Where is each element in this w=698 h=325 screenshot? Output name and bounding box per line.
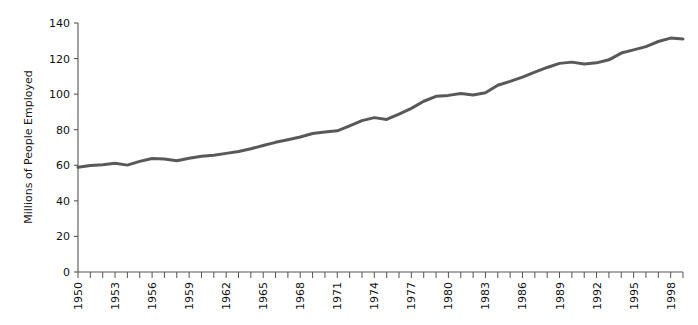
x-tick-label: 1968: [294, 282, 307, 310]
x-tick-label: 1950: [72, 282, 85, 310]
x-tick-label-group: 1959: [183, 282, 196, 310]
x-tick-label-group: 1995: [628, 282, 641, 310]
y-tick-label: 80: [56, 124, 70, 137]
x-tick-label-group: 1962: [220, 282, 233, 310]
y-tick-label: 40: [56, 195, 70, 208]
x-tick-label: 1980: [442, 282, 455, 310]
x-tick-label: 1983: [479, 282, 492, 310]
x-tick-label: 1974: [368, 282, 381, 310]
x-tick-label-group: 1986: [516, 282, 529, 310]
x-tick-label: 1977: [405, 282, 418, 310]
x-tick-label-group: 1971: [331, 282, 344, 310]
y-tick-label: 60: [56, 159, 70, 172]
x-tick-label-group: 1983: [479, 282, 492, 310]
x-tick-label: 1971: [331, 282, 344, 310]
x-tick-label: 1953: [109, 282, 122, 310]
x-tick-label-group: 1956: [146, 282, 159, 310]
x-tick-label: 1995: [628, 282, 641, 310]
x-tick-label-group: 1953: [109, 282, 122, 310]
x-tick-label: 1998: [665, 282, 678, 310]
x-tick-label: 1956: [146, 282, 159, 310]
x-tick-label-group: 1965: [257, 282, 270, 310]
y-tick-label: 140: [49, 17, 70, 30]
x-tick-label-group: 1980: [442, 282, 455, 310]
x-tick-label: 1986: [516, 282, 529, 310]
x-tick-label: 1989: [554, 282, 567, 310]
x-tick-label-group: 1977: [405, 282, 418, 310]
y-tick-label: 0: [63, 266, 70, 279]
y-axis-title: Millions of People Employed: [22, 70, 35, 223]
x-tick-label: 1959: [183, 282, 196, 310]
x-tick-label-group: 1968: [294, 282, 307, 310]
x-tick-label-group: 1998: [665, 282, 678, 310]
x-tick-label-group: 1992: [591, 282, 604, 310]
x-tick-label: 1962: [220, 282, 233, 310]
x-tick-label-group: 1974: [368, 282, 381, 310]
chart-canvas: 020406080100120140 195019531956195919621…: [0, 0, 698, 325]
chart-background: [0, 0, 698, 325]
x-tick-label: 1992: [591, 282, 604, 310]
y-tick-label: 120: [49, 53, 70, 66]
x-tick-label-group: 1950: [72, 282, 85, 310]
y-tick-label: 100: [49, 88, 70, 101]
x-tick-label: 1965: [257, 282, 270, 310]
x-tick-label-group: 1989: [554, 282, 567, 310]
employment-line-chart: 020406080100120140 195019531956195919621…: [0, 0, 698, 325]
y-tick-label: 20: [56, 230, 70, 243]
